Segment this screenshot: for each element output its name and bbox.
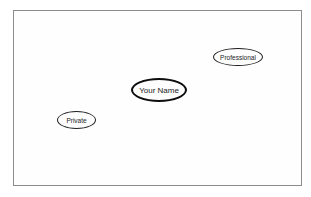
node-professional-label: Professional xyxy=(220,54,256,61)
node-private-label: Private xyxy=(66,117,86,124)
diagram-canvas: Professional Your Name Private xyxy=(0,0,311,197)
node-your-name: Your Name xyxy=(131,78,187,102)
node-your-name-label: Your Name xyxy=(139,86,179,95)
node-professional: Professional xyxy=(213,48,263,66)
node-private: Private xyxy=(57,111,96,129)
